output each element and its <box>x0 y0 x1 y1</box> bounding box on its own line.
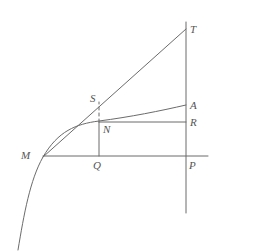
tangent-line-mt <box>43 29 186 157</box>
point-label-n: N <box>103 124 110 135</box>
point-label-q: Q <box>93 160 101 171</box>
geometric-figure: T S A R N M Q P <box>0 0 253 251</box>
point-label-s: S <box>90 93 96 104</box>
point-label-a: A <box>190 100 197 111</box>
point-label-p: P <box>189 160 196 171</box>
point-label-r: R <box>190 117 197 128</box>
point-label-m: M <box>21 150 30 161</box>
figure-canvas <box>0 0 253 251</box>
point-label-t: T <box>190 24 196 35</box>
curve-path <box>18 105 186 250</box>
